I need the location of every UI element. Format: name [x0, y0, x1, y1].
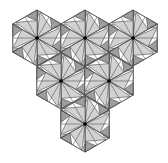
center-hub-dot — [131, 36, 135, 40]
center-hub-dot — [59, 79, 63, 83]
center-hub-dot — [35, 36, 39, 40]
center-hub-dot — [83, 36, 87, 40]
center-hub-dot — [83, 122, 87, 126]
hexagon-tiles — [13, 10, 158, 152]
pinwheel-tiling-diagram — [0, 0, 168, 163]
center-hub-dot — [107, 79, 111, 83]
